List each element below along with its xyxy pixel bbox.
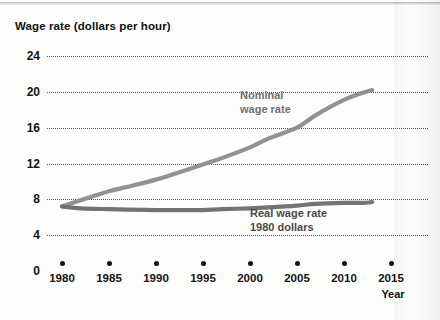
x-tick-dot-1985 [107, 261, 112, 266]
x-tick-label-1995: 1995 [181, 272, 225, 284]
x-tick-dot-2015 [389, 261, 394, 266]
x-tick-dot-2010 [342, 261, 347, 266]
x-tick-dot-1990 [154, 261, 159, 266]
wage-rate-line-chart: Wage rate (dollars per hour) 24201612840… [0, 0, 440, 320]
x-tick-label-2005: 2005 [275, 272, 319, 284]
x-axis-title: Year [371, 288, 415, 300]
x-tick-label-2015: 2015 [369, 272, 413, 284]
series-annotation-nominal-line2: wage rate [240, 103, 291, 117]
series-line-nominal-wage-rate [62, 90, 372, 206]
series-annotation-nominal: Nominal wage rate [240, 89, 291, 116]
series-annotation-real-line1: Real wage rate [250, 207, 327, 221]
x-tick-label-1980: 1980 [40, 272, 84, 284]
x-tick-dot-1980 [60, 261, 65, 266]
series-annotation-real-line2: 1980 dollars [250, 221, 327, 235]
x-tick-dot-1995 [201, 261, 206, 266]
series-annotation-real: Real wage rate 1980 dollars [250, 207, 327, 234]
x-tick-label-2010: 2010 [322, 272, 366, 284]
series-annotation-nominal-line1: Nominal [240, 89, 291, 103]
x-tick-label-1990: 1990 [134, 272, 178, 284]
x-tick-label-1985: 1985 [87, 272, 131, 284]
x-tick-dot-2005 [295, 261, 300, 266]
x-tick-dot-2000 [248, 261, 253, 266]
x-tick-label-2000: 2000 [228, 272, 272, 284]
